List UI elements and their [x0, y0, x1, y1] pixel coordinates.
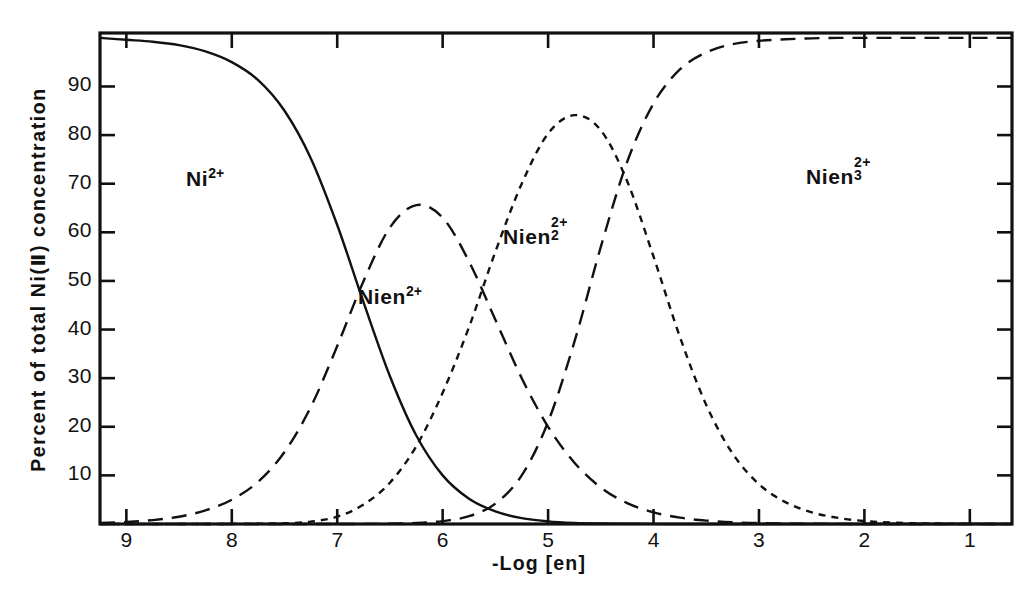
- chart-figure: Percent of total Ni(Ⅱ) concentration -Lo…: [0, 0, 1034, 595]
- axis-ticks: [100, 33, 1012, 524]
- curve-Ni2+: [100, 38, 1012, 524]
- plot-frame: [100, 33, 1012, 524]
- curve-Nien2+: [100, 205, 1012, 524]
- data-curves: [100, 38, 1012, 524]
- curve-Nien3_2+: [100, 38, 1012, 524]
- plot-area: [0, 0, 1034, 595]
- curve-Nien2_2+: [100, 115, 1012, 524]
